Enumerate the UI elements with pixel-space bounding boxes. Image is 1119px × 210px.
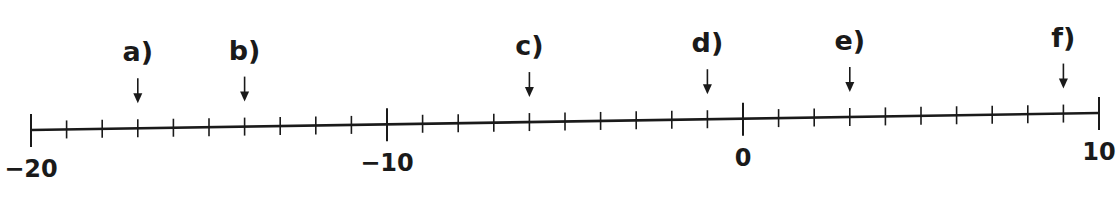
arrow-marker-b: b)	[229, 35, 261, 102]
arrow-marker-a: a)	[123, 36, 154, 103]
arrow-label: d)	[692, 27, 724, 58]
tick-marks	[31, 97, 1099, 147]
arrow-label: b)	[229, 35, 261, 66]
tick-labels: −20−10010	[4, 138, 1115, 183]
arrow-down-icon	[525, 87, 534, 97]
tick-label: 10	[1082, 138, 1115, 166]
tick-label: −10	[360, 149, 414, 177]
arrow-label: c)	[515, 30, 543, 61]
arrow-label: a)	[123, 36, 154, 67]
arrow-down-icon	[703, 84, 712, 94]
arrow-marker-e: e)	[834, 25, 865, 92]
arrow-markers: a)b)c)d)e)f)	[123, 22, 1076, 104]
arrow-marker-f: f)	[1051, 22, 1075, 89]
arrow-marker-d: d)	[692, 27, 724, 94]
arrow-down-icon	[1059, 79, 1068, 89]
arrow-label: e)	[834, 25, 865, 56]
arrow-label: f)	[1051, 22, 1075, 53]
tick-label: 0	[735, 144, 752, 172]
arrow-down-icon	[240, 92, 249, 102]
arrow-marker-c: c)	[515, 30, 543, 97]
number-line-diagram: −20−10010 a)b)c)d)e)f)	[0, 0, 1119, 210]
arrow-down-icon	[845, 82, 854, 92]
tick-label: −20	[4, 155, 58, 183]
arrow-down-icon	[133, 93, 142, 103]
